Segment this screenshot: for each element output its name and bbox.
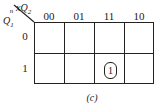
grouping-loop: 1 <box>104 62 117 79</box>
cell-value-one: 1 <box>108 65 113 76</box>
column-variable-label: xQ2n <box>16 1 35 16</box>
cell-r0-c10 <box>125 23 155 54</box>
column-header-10: 10 <box>124 10 154 22</box>
cell-r0-c00 <box>35 23 65 54</box>
column-header-11: 11 <box>94 10 124 22</box>
row-header-1: 1 <box>20 62 30 74</box>
karnaugh-map-grid: 1 <box>34 22 154 84</box>
cell-r0-c11 <box>95 23 125 54</box>
figure-caption: (c) <box>80 92 104 103</box>
cell-r0-c01 <box>65 23 95 54</box>
row-variable-label: Q1n <box>3 14 17 29</box>
cell-r1-c01 <box>65 54 95 85</box>
cell-r1-c10 <box>125 54 155 85</box>
column-header-00: 00 <box>34 10 64 22</box>
cell-r1-c00 <box>35 54 65 85</box>
row-header-0: 0 <box>20 30 30 42</box>
column-header-01: 01 <box>64 10 94 22</box>
